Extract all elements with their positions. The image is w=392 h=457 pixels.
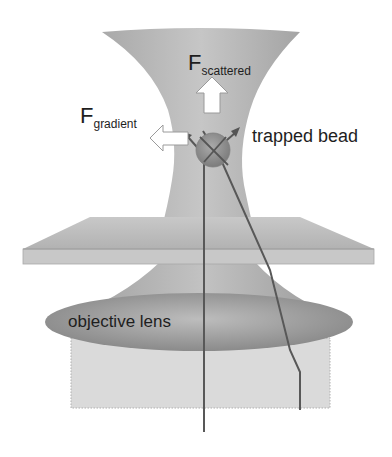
- label-f-gradient-main: F: [80, 103, 93, 128]
- coverslip-top: [23, 217, 374, 249]
- label-trapped-bead: trapped bead: [252, 126, 358, 147]
- label-f-scattered: Fscattered: [188, 50, 251, 78]
- label-f-scattered-sub: scattered: [201, 64, 250, 78]
- label-objective-lens: objective lens: [68, 312, 171, 332]
- label-f-scattered-main: F: [188, 50, 201, 75]
- coverslip-front: [23, 249, 374, 264]
- label-f-gradient: Fgradient: [80, 103, 137, 131]
- label-f-gradient-sub: gradient: [93, 117, 136, 131]
